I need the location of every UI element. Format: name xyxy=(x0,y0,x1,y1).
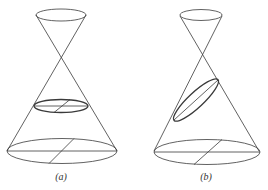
ellipse-major-axis xyxy=(174,80,218,120)
generator-line-left xyxy=(36,15,117,151)
top-nappe-rim xyxy=(36,9,86,21)
conic-sections-diagram xyxy=(0,0,268,190)
generator-line-left xyxy=(180,16,259,151)
figure-b xyxy=(154,10,260,165)
figure-a xyxy=(7,9,117,164)
figure-a-label: (a) xyxy=(55,171,67,182)
generator-line-right xyxy=(7,15,86,151)
figure-b-label: (b) xyxy=(200,171,212,182)
generator-line-right xyxy=(154,16,222,151)
top-nappe-rim xyxy=(180,10,222,21)
